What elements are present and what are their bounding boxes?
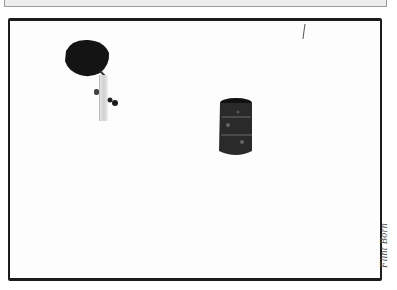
top-panel xyxy=(4,0,387,7)
photo-frame xyxy=(8,18,382,281)
barrel-icon xyxy=(218,97,254,159)
person-hand xyxy=(94,89,99,95)
umbrella-icon xyxy=(62,37,112,79)
crack-mark-icon xyxy=(300,23,308,41)
dog-icon xyxy=(107,97,119,107)
photo-credit: Flint Born xyxy=(378,223,389,268)
